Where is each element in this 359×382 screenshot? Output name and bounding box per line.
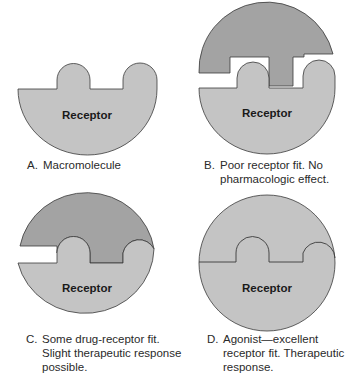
- caption-b: B.Poor receptor fit. No pharmacologic ef…: [204, 158, 329, 186]
- panel-c: Receptor: [18, 193, 154, 314]
- drug-receptor-circle-d: [199, 195, 335, 331]
- caption-a: A.Macromolecule: [27, 158, 121, 172]
- receptor-shape-c: [18, 237, 154, 314]
- panel-a: Receptor: [18, 63, 157, 155]
- caption-c: C.Some drug-receptor fit. Slight therape…: [26, 332, 181, 374]
- receptor-label-d: Receptor: [242, 282, 292, 294]
- drug-receptor-diagram: Receptor Receptor Receptor Receptor: [0, 0, 359, 382]
- receptor-label-a: Receptor: [62, 109, 112, 121]
- caption-d: D.Agonist—excellent receptor fit. Therap…: [207, 332, 344, 374]
- receptor-label-b: Receptor: [242, 107, 292, 119]
- receptor-label-c: Receptor: [62, 282, 112, 294]
- panel-d: Receptor: [199, 195, 335, 331]
- panel-b: Receptor: [199, 2, 335, 154]
